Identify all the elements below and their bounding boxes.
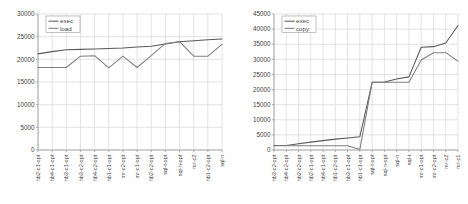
x-tick-label: mr-c2 (443, 155, 449, 169)
x-tick-label: sql-n-opt (382, 154, 388, 176)
x-tick-label: hb3-c1-opt (345, 154, 351, 181)
y-tick-label: 20000 (253, 86, 271, 93)
y-tick-label: 35000 (253, 40, 271, 47)
y-tick-label: 5000 (20, 124, 35, 131)
y-tick-label: 5000 (256, 131, 271, 138)
y-tick-label: 0 (267, 146, 271, 153)
y-tick-label: 10000 (17, 101, 35, 108)
x-tick-label: hb1-c1-opt (106, 154, 112, 181)
line-chart-right: 0500010000150002000025000300003500040000… (234, 0, 468, 204)
x-tick-label: sql-t-opt (369, 154, 375, 175)
x-tick-label: hb2-c1-opt (308, 154, 314, 181)
y-tick-label: 0 (31, 146, 35, 153)
y-tick-label: 15000 (253, 101, 271, 108)
y-tick-label: 30000 (253, 56, 271, 63)
y-tick-label: 45000 (253, 10, 271, 17)
x-tick-label: mr-c2-opt (431, 154, 437, 178)
line-chart-left: 050001000015000200002500030000hb2-c1-opt… (0, 0, 234, 204)
y-tick-label: 10000 (253, 116, 271, 123)
figure-row: 050001000015000200002500030000hb2-c1-opt… (0, 0, 468, 204)
x-tick-label: hb4-c1-opt (49, 154, 55, 181)
x-tick-label: mr-c2-opt (120, 154, 126, 178)
x-tick-label: hb3-c1-opt (63, 154, 69, 181)
x-tick-label: mr-c1 (455, 155, 461, 169)
x-tick-label: hb1-c1-opt (357, 154, 363, 181)
x-tick-label: sql-n (219, 155, 225, 167)
x-tick-label: hb2-c2-opt (148, 154, 154, 181)
x-tick-label: hb1-c2-opt (332, 154, 338, 181)
x-tick-label: hb4-c1-opt (320, 154, 326, 181)
x-tick-label: hb4-c2-opt (92, 154, 98, 181)
x-tick-label: sql-n-opt (177, 154, 183, 176)
legend-label-copy: copy (296, 25, 310, 32)
y-tick-label: 25000 (17, 33, 35, 40)
chart-panel-left: 050001000015000200002500030000hb2-c1-opt… (0, 0, 234, 204)
chart-panel-right: 0500010000150002000025000300003500040000… (234, 0, 468, 204)
legend-label-load: load (60, 25, 72, 32)
x-tick-label: hb3-c2-opt (271, 154, 277, 181)
x-tick-label: sql-n (394, 155, 400, 167)
x-tick-label: mr-c1-opt (418, 154, 424, 178)
x-tick-label: hb2-c2-opt (296, 154, 302, 181)
x-tick-label: sql-t (406, 154, 412, 165)
legend-label-exec: exec (296, 17, 309, 24)
x-tick-label: hb2-c1-opt (35, 154, 41, 181)
x-tick-label: hb4-c2-opt (283, 154, 289, 181)
y-tick-label: 30000 (17, 10, 35, 17)
y-tick-label: 40000 (253, 25, 271, 32)
legend-label-exec: exec (60, 17, 73, 24)
x-tick-label: mr-c1-opt (134, 154, 140, 178)
x-tick-label: hb3-c2-opt (78, 154, 84, 181)
y-tick-label: 15000 (17, 78, 35, 85)
y-tick-label: 25000 (253, 71, 271, 78)
x-tick-label: mr-c2 (191, 155, 197, 169)
y-tick-label: 20000 (17, 56, 35, 63)
x-tick-label: sql-t-opt (162, 154, 168, 175)
x-tick-label: hb1-c2-opt (205, 154, 211, 181)
